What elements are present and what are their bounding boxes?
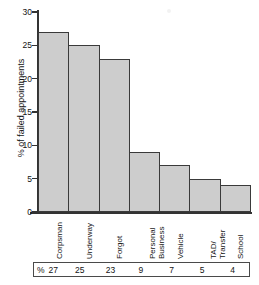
y-tick-label-10: 10 bbox=[14, 140, 32, 150]
category-label-line: Underway bbox=[86, 223, 95, 259]
y-tick-label-15: 15 bbox=[14, 107, 32, 117]
y-tick-0 bbox=[32, 211, 37, 213]
value-cell: 5 bbox=[187, 265, 218, 275]
value-cell: 4 bbox=[217, 265, 248, 275]
y-tick-30 bbox=[32, 11, 37, 13]
y-tick-label-25: 25 bbox=[14, 40, 32, 50]
value-cell: 7 bbox=[156, 265, 187, 275]
value-cell-text: 27 bbox=[49, 265, 58, 275]
y-tick-label-20: 20 bbox=[14, 74, 32, 84]
category-label: PersonalBusiness bbox=[149, 227, 166, 259]
bar bbox=[68, 45, 99, 212]
y-tick-label-0: 0 bbox=[14, 207, 32, 217]
x-axis-category-labels: CorpsmanUnderwayForgotPersonalBusinessVe… bbox=[38, 214, 250, 260]
bar-chart: % of failed appointments 051015202530 Co… bbox=[0, 0, 259, 285]
bar bbox=[220, 185, 251, 212]
value-cell: %27 bbox=[34, 265, 65, 275]
bar bbox=[159, 165, 190, 212]
value-cell: 23 bbox=[95, 265, 126, 275]
y-tick-20 bbox=[32, 78, 37, 80]
y-tick-10 bbox=[32, 145, 37, 147]
category-label-line: Transfer bbox=[218, 230, 227, 260]
bar bbox=[129, 152, 160, 212]
category-label: Underway bbox=[86, 223, 95, 259]
category-label-line: School bbox=[237, 235, 246, 259]
value-table: %2725239754 bbox=[33, 262, 250, 277]
category-label: TAD/Transfer bbox=[210, 230, 227, 260]
category-label: Forgot bbox=[116, 236, 125, 259]
category-label-line: Business bbox=[158, 227, 167, 259]
category-label-line: Vehicle bbox=[177, 233, 186, 259]
plot-area bbox=[38, 12, 250, 212]
bar bbox=[99, 59, 130, 212]
y-tick-label-5: 5 bbox=[14, 174, 32, 184]
category-label-line: TAD/ bbox=[210, 230, 219, 260]
bar bbox=[189, 179, 220, 212]
category-label: Corpsman bbox=[56, 222, 65, 259]
category-label: Vehicle bbox=[177, 233, 186, 259]
y-tick-label-30: 30 bbox=[14, 7, 32, 17]
value-cell: 9 bbox=[126, 265, 157, 275]
y-tick-5 bbox=[32, 178, 37, 180]
category-label-line: Forgot bbox=[116, 236, 125, 259]
percent-symbol: % bbox=[37, 265, 45, 275]
category-label-line: Corpsman bbox=[56, 222, 65, 259]
value-cell: 25 bbox=[65, 265, 96, 275]
bar bbox=[38, 32, 69, 212]
y-tick-25 bbox=[32, 45, 37, 47]
y-tick-15 bbox=[32, 111, 37, 113]
category-label: School bbox=[237, 235, 246, 259]
